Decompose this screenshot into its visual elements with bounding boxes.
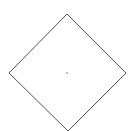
center-mark — [67, 72, 68, 74]
diagram-canvas — [0, 0, 137, 131]
